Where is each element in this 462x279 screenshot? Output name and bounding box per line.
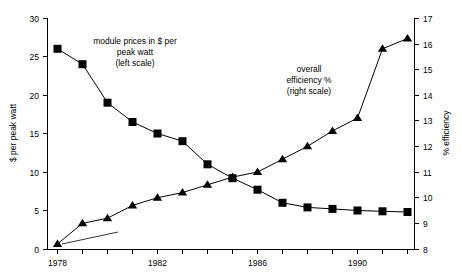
left-tick-label-30: 30 <box>30 14 40 24</box>
module-prices-point-1986 <box>254 186 262 194</box>
module-price-annotation-line3: (left scale) <box>115 58 154 68</box>
module-prices-point-1992 <box>404 208 412 216</box>
left-tick-label-10: 10 <box>30 168 40 178</box>
efficiency-annotation-line1: overall <box>296 64 321 74</box>
left-axis-title: $ per peak watt <box>8 103 18 162</box>
right-tick-label-8: 8 <box>423 245 428 255</box>
right-tick-label-15: 15 <box>423 65 433 75</box>
module-price-annotation-line2: peak watt <box>117 47 154 57</box>
module-prices-point-1982 <box>154 130 162 138</box>
x-tick-label-1986: 1986 <box>248 258 267 268</box>
module-prices-point-1979 <box>79 60 87 68</box>
left-tick-label-5: 5 <box>34 206 39 216</box>
module-prices-point-1988 <box>304 203 312 211</box>
efficiency-annotation-line3: (right scale) <box>287 86 332 96</box>
right-tick-label-9: 9 <box>423 219 428 229</box>
module-prices-point-1984 <box>204 160 212 168</box>
x-tick-label-1982: 1982 <box>148 258 167 268</box>
left-tick-label-20: 20 <box>30 91 40 101</box>
left-tick-label-25: 25 <box>30 52 40 62</box>
module-price-annotation-line1: module prices in $ per <box>93 36 177 46</box>
right-tick-label-11: 11 <box>423 168 432 178</box>
chart-container: 30 25 20 15 10 5 0 $ per peak watt 17 16 <box>0 0 462 279</box>
line-chart: 30 25 20 15 10 5 0 $ per peak watt 17 16 <box>0 0 462 279</box>
right-tick-label-13: 13 <box>423 116 433 126</box>
chart-background <box>0 0 462 279</box>
right-tick-label-14: 14 <box>423 91 433 101</box>
x-tick-label-1978: 1978 <box>48 258 67 268</box>
right-tick-label-12: 12 <box>423 142 433 152</box>
module-prices-point-1987 <box>279 199 287 207</box>
module-prices-point-1983 <box>179 137 187 145</box>
module-prices-point-1991 <box>379 207 387 215</box>
right-tick-label-16: 16 <box>423 40 433 50</box>
module-prices-point-1990 <box>354 207 362 215</box>
module-prices-point-1978 <box>54 45 62 53</box>
left-tick-label-0: 0 <box>34 245 39 255</box>
left-tick-label-15: 15 <box>30 129 40 139</box>
right-tick-label-10: 10 <box>423 193 433 203</box>
efficiency-annotation-line2: efficiency % <box>286 75 332 85</box>
right-axis-title: % efficiency <box>441 110 451 156</box>
right-tick-label-17: 17 <box>423 14 433 24</box>
module-prices-point-1989 <box>329 205 337 213</box>
x-tick-label-1990: 1990 <box>348 258 367 268</box>
module-prices-point-1981 <box>129 118 137 126</box>
module-prices-point-1980 <box>104 99 112 107</box>
